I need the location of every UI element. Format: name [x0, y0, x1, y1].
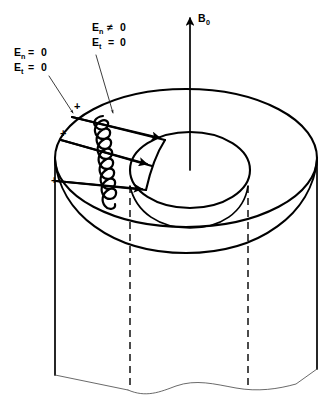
boundary-left-line2-relation: = — [28, 61, 34, 73]
boundary-label-right: E n ≠ 0 E t = 0 — [92, 21, 126, 113]
boundary-left-line1-subscript: n — [21, 52, 25, 61]
break-line-left-segment — [55, 375, 128, 390]
coil-winding — [94, 116, 116, 209]
cylinder-body — [55, 160, 317, 375]
boundary-right-line1-value: 0 — [120, 21, 126, 33]
boundary-left-leader-line — [49, 76, 73, 113]
break-line-wave — [128, 369, 317, 394]
axial-field-label-symbol: B — [198, 12, 206, 24]
axial-field-label: B 0 — [198, 12, 210, 27]
boundary-left-line2-subscript: t — [21, 67, 24, 76]
boundary-left-line1-value: 0 — [41, 46, 47, 58]
boundary-right-line2-value: 0 — [120, 36, 126, 48]
boundary-left-line2-value: 0 — [41, 61, 47, 73]
boundary-right-line2-subscript: t — [99, 42, 102, 51]
break-line — [55, 369, 317, 394]
helical-coil — [94, 116, 116, 209]
boundary-left-line1-symbol: E — [14, 46, 21, 58]
boundary-right-line1-symbol: E — [92, 21, 99, 33]
boundary-left-line1-relation: = — [28, 46, 34, 58]
technical-diagram: B 0 E n = 0 E t = 0 E n ≠ 0 E t = 0 + + … — [0, 0, 336, 405]
outer-top-ellipse — [55, 89, 317, 227]
boundary-left-line2-symbol: E — [14, 61, 21, 73]
outer-top-ellipse-path — [55, 89, 317, 227]
charge-mark-1: + — [74, 100, 80, 112]
charge-marks: + + + — [51, 100, 80, 186]
axial-field-label-subscript: 0 — [206, 18, 210, 27]
charge-mark-2: + — [60, 127, 66, 139]
boundary-label-left: E n = 0 E t = 0 — [14, 46, 73, 113]
charge-mark-3: + — [51, 174, 57, 186]
boundary-right-line1-subscript: n — [99, 27, 103, 36]
radial-arrow-1 — [72, 117, 160, 138]
boundary-right-line1-relation: ≠ — [107, 21, 113, 33]
boundary-right-line2-relation: = — [108, 36, 114, 48]
boundary-right-line2-symbol: E — [92, 36, 99, 48]
